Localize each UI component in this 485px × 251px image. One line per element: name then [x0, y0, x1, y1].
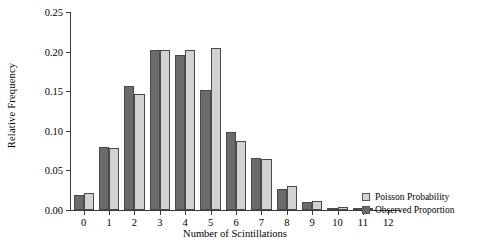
y-axis-tick — [66, 52, 71, 53]
bar-poisson-5 — [211, 48, 221, 210]
x-axis-tick-label: 1 — [106, 217, 111, 228]
bar-poisson-7 — [261, 159, 271, 210]
bar-observed-2 — [124, 86, 134, 210]
bar-observed-0 — [74, 195, 84, 210]
x-axis-tick-label: 12 — [383, 217, 394, 228]
x-axis-tick-label: 0 — [81, 217, 86, 228]
y-axis-title-text: Relative Frequency — [7, 62, 18, 148]
x-axis-tick-label: 7 — [259, 217, 264, 228]
bar-poisson-4 — [185, 50, 195, 210]
y-axis-tick-label: 0.05 — [45, 165, 63, 176]
x-axis-tick — [236, 210, 237, 215]
legend-item-observed: Observed Proportion — [362, 205, 454, 215]
x-axis-tick — [338, 210, 339, 215]
bar-poisson-10 — [338, 207, 348, 210]
y-axis-tick — [66, 131, 71, 132]
x-axis-title: Number of Scintillations — [70, 228, 400, 239]
y-axis-title: Relative Frequency — [4, 0, 20, 210]
bar-poisson-0 — [84, 193, 94, 210]
x-axis-tick — [312, 210, 313, 215]
x-axis-tick — [211, 210, 212, 215]
bar-observed-8 — [277, 189, 287, 210]
bar-poisson-8 — [287, 186, 297, 210]
bar-observed-3 — [150, 50, 160, 210]
plot-area: 0.000.050.100.150.200.250123456789101112 — [70, 12, 401, 211]
x-axis-tick-label: 4 — [183, 217, 188, 228]
bar-poisson-9 — [312, 201, 322, 211]
bar-poisson-2 — [134, 94, 144, 210]
bar-observed-5 — [200, 90, 210, 210]
y-axis-tick-label: 0.15 — [45, 86, 63, 97]
x-axis-tick-label: 10 — [332, 217, 343, 228]
x-axis-tick-label: 6 — [233, 217, 238, 228]
bar-observed-9 — [302, 202, 312, 210]
x-axis-tick — [160, 210, 161, 215]
x-axis-tick-label: 11 — [358, 217, 368, 228]
x-axis-tick-label: 8 — [284, 217, 289, 228]
bar-observed-7 — [251, 158, 261, 210]
x-axis-tick-label: 3 — [157, 217, 162, 228]
legend-swatch-poisson-icon — [362, 193, 370, 201]
bar-observed-10 — [327, 208, 337, 210]
bar-observed-4 — [175, 55, 185, 210]
legend-item-poisson: Poisson Probability — [362, 192, 454, 202]
scintillation-bar-chart: Relative Frequency 0.000.050.100.150.200… — [0, 0, 485, 251]
bars-container — [71, 12, 401, 210]
y-axis-tick-label: 0.00 — [45, 205, 63, 216]
y-axis-tick — [66, 12, 71, 13]
bar-poisson-6 — [236, 141, 246, 210]
y-axis-tick-label: 0.25 — [45, 7, 63, 18]
x-axis-tick — [84, 210, 85, 215]
x-axis-tick — [134, 210, 135, 215]
y-axis-tick-label: 0.20 — [45, 46, 63, 57]
legend-swatch-observed-icon — [362, 206, 370, 214]
x-axis-tick-label: 2 — [132, 217, 137, 228]
y-axis-tick — [66, 170, 71, 171]
legend-label-observed: Observed Proportion — [375, 205, 454, 215]
bar-observed-6 — [226, 132, 236, 210]
x-axis-tick-label: 5 — [208, 217, 213, 228]
x-axis-tick — [109, 210, 110, 215]
x-axis-tick — [185, 210, 186, 215]
y-axis-tick — [66, 210, 71, 211]
bar-observed-1 — [99, 147, 109, 210]
y-axis-tick — [66, 91, 71, 92]
y-axis-tick-label: 0.10 — [45, 125, 63, 136]
bar-poisson-1 — [109, 148, 119, 210]
x-axis-tick-label: 9 — [310, 217, 315, 228]
legend-label-poisson: Poisson Probability — [375, 192, 449, 202]
bar-poisson-3 — [160, 50, 170, 210]
x-axis-tick — [287, 210, 288, 215]
chart-legend: Poisson Probability Observed Proportion — [362, 192, 454, 215]
x-axis-tick — [261, 210, 262, 215]
